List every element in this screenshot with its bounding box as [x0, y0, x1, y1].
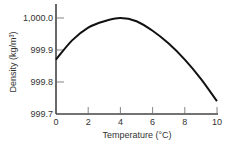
x-tick-label: 6: [150, 117, 155, 127]
y-tick-label: 999.9: [30, 45, 53, 55]
y-ticks: 999.7999.8999.91,000.0: [23, 13, 64, 119]
y-tick-label: 999.7: [30, 109, 53, 119]
x-tick-label: 8: [182, 117, 187, 127]
x-tick-label: 0: [53, 117, 58, 127]
x-tick-label: 10: [212, 117, 222, 127]
y-axis-label: Density (kg/m³): [8, 31, 18, 92]
x-axis-label: Temperature (°C): [102, 130, 171, 140]
x-ticks: 0246810: [53, 107, 222, 127]
y-tick-label: 999.8: [30, 77, 53, 87]
density-curve: [56, 18, 217, 101]
x-tick-label: 4: [118, 117, 123, 127]
y-tick-label: 1,000.0: [23, 13, 53, 23]
density-temperature-chart: 999.7999.8999.91,000.0 0246810 Temperatu…: [0, 0, 235, 145]
x-tick-label: 2: [86, 117, 91, 127]
